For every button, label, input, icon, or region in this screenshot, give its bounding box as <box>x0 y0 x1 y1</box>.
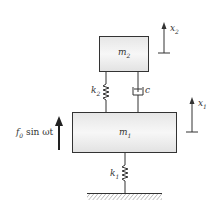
spring-k1-label: k1 <box>110 169 119 180</box>
damper-c-label: c <box>145 86 150 95</box>
force-function: sin ωt <box>23 127 53 137</box>
spring-k2 <box>103 72 109 112</box>
spring-k1-subscript: 1 <box>115 173 119 180</box>
force-label: f0 sin ωt <box>16 128 53 139</box>
spring-k2-subscript: 2 <box>96 90 100 97</box>
spring-k2-label: k2 <box>91 86 100 97</box>
x2-arrow-icon <box>158 22 170 53</box>
mass-m1-subscript: 1 <box>128 132 132 139</box>
force-arrow-icon <box>55 116 63 150</box>
x2-subscript: 2 <box>175 28 179 35</box>
mass-m2-label: m2 <box>118 48 130 59</box>
mass-m2-subscript: 2 <box>127 52 131 59</box>
damper-c <box>133 72 143 112</box>
mass-m1-symbol: m <box>119 127 128 137</box>
mass-m2-symbol: m <box>118 47 127 57</box>
mass-m1-label: m1 <box>119 128 131 139</box>
x1-arrow-icon <box>186 97 198 132</box>
spring-k1 <box>122 153 128 193</box>
mass-spring-diagram <box>0 0 218 215</box>
x1-subscript: 1 <box>203 103 207 110</box>
x2-label: x2 <box>170 24 179 35</box>
ground <box>87 194 162 201</box>
damper-c-symbol: c <box>145 85 150 95</box>
x1-label: x1 <box>198 99 207 110</box>
